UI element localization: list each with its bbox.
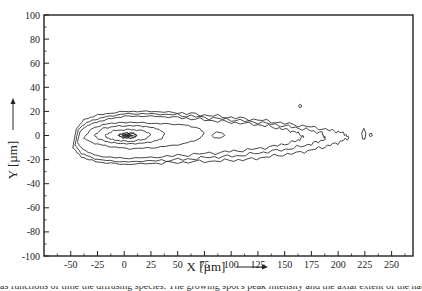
- y-axis-title: Y [µm]: [5, 98, 20, 179]
- y-tick-label: -40: [27, 178, 40, 189]
- x-tick-label: 0: [122, 259, 127, 270]
- contour-island: [362, 128, 366, 139]
- x-tick-label: 175: [304, 259, 319, 270]
- y-axis-label: Y [µm]: [5, 141, 20, 179]
- y-tick-label: 20: [30, 106, 40, 117]
- x-tick-label: 25: [146, 259, 156, 270]
- x-tick-label: 100: [224, 259, 239, 270]
- x-tick-label: 150: [277, 259, 292, 270]
- x-tick-label: -50: [64, 259, 77, 270]
- y-tick-label: 0: [35, 130, 40, 141]
- x-axis-ticks: -50-250255075100125150175200225250: [57, 251, 405, 270]
- x-tick-label: -25: [91, 259, 104, 270]
- contour-line: [122, 134, 133, 137]
- contour-island: [212, 132, 225, 138]
- x-tick-label: 50: [173, 259, 183, 270]
- contour-lines: [73, 104, 373, 164]
- x-tick-label: 200: [331, 259, 346, 270]
- y-tick-label: -20: [27, 154, 40, 165]
- contour-figure: -50-250255075100125150175200225250 10080…: [0, 0, 422, 291]
- y-tick-label: 40: [30, 82, 40, 93]
- x-axis-label: X [µm]: [187, 259, 226, 274]
- contour-island: [369, 133, 372, 137]
- plot-frame: [44, 15, 413, 256]
- y-axis-arrow-icon: [11, 98, 16, 130]
- y-tick-label: -100: [22, 251, 40, 262]
- y-tick-label: 60: [30, 58, 40, 69]
- contour-island: [299, 104, 302, 108]
- y-tick-label: 100: [25, 10, 40, 21]
- y-tick-label: -80: [27, 226, 40, 237]
- x-tick-label: 250: [384, 259, 399, 270]
- y-tick-label: 80: [30, 34, 40, 45]
- y-tick-label: -60: [27, 202, 40, 213]
- contour-chart: -50-250255075100125150175200225250 10080…: [0, 0, 422, 291]
- y-axis-ticks: 100806040200-20-40-60-80-100: [22, 10, 49, 262]
- x-tick-label: 225: [357, 259, 372, 270]
